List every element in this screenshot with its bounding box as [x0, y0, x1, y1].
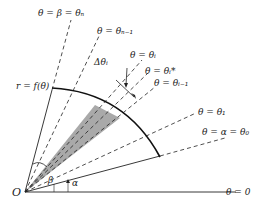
label-delta-theta: Δθᵢ — [93, 57, 108, 67]
label-theta-n-minus-1: θ = θₙ₋₁ — [97, 26, 133, 36]
label-alpha: α — [72, 178, 78, 188]
label-origin: O — [12, 186, 21, 199]
delta-theta-arrow — [126, 68, 127, 85]
label-theta-1: θ = θ₁ — [198, 107, 226, 117]
label-theta-zero: θ = 0 — [226, 187, 251, 197]
label-beta: β — [47, 175, 53, 185]
ray-theta-alpha-dashed — [160, 138, 225, 156]
label-curve: r = f(θ) — [16, 81, 50, 91]
polar-area-diagram: θ = β = θₙ θ = θₙ₋₁ Δθᵢ θ = θᵢ θ = θᵢ* θ… — [0, 0, 258, 213]
label-theta-alpha: θ = α = θ₀ — [202, 127, 249, 137]
beta-angle-arc — [33, 163, 47, 167]
label-theta-i-star: θ = θᵢ* — [145, 66, 176, 76]
label-theta-beta: θ = β = θₙ — [38, 8, 85, 18]
arrowhead-2 — [131, 93, 136, 99]
label-theta-i-minus-1: θ = θᵢ₋₁ — [154, 78, 188, 88]
arrowhead — [124, 83, 128, 88]
delta-theta-bracket — [116, 80, 134, 97]
ray-theta-beta-dashed — [52, 20, 71, 90]
label-theta-i: θ = θᵢ — [130, 50, 156, 60]
